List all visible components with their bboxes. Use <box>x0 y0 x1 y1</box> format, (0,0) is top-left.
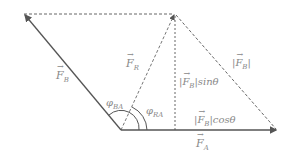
label-fa: FA <box>196 138 209 152</box>
hypotenuse-dashed <box>176 15 276 129</box>
label-fr: FR <box>126 58 139 72</box>
label-mag-fb: |FB| <box>232 58 251 71</box>
diagram-svg <box>0 0 293 160</box>
label-cos-term: |FB|cosθ <box>194 115 236 128</box>
label-fb: FB <box>56 70 69 84</box>
label-phi-ba: φBA <box>106 98 123 111</box>
label-phi-ra: φRA <box>146 106 163 119</box>
vector-diagram: FB FR FA φBA φRA |FB| |FB|sinθ |FB|cosθ <box>0 0 293 160</box>
label-sin-term: |FB|sinθ <box>179 77 219 90</box>
vector-fb <box>25 15 121 130</box>
